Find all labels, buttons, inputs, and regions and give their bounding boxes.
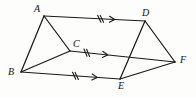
edge-a-d bbox=[44, 16, 145, 21]
figure-svg bbox=[0, 0, 196, 97]
geometry-figure: ABCDEF bbox=[0, 0, 196, 97]
edge-b-e bbox=[21, 72, 120, 79]
vertex-label-b: B bbox=[8, 67, 14, 77]
edge-e-f bbox=[120, 62, 175, 79]
edge-layer bbox=[21, 16, 175, 79]
vertex-label-c: C bbox=[73, 39, 80, 49]
vertex-label-f: F bbox=[180, 55, 186, 65]
vertex-label-d: D bbox=[142, 8, 149, 18]
edge-d-f bbox=[145, 21, 175, 62]
vertex-label-a: A bbox=[34, 4, 40, 14]
vertex-label-e: E bbox=[118, 81, 124, 91]
edge-d-e bbox=[120, 21, 145, 79]
edge-a-c bbox=[44, 16, 70, 51]
